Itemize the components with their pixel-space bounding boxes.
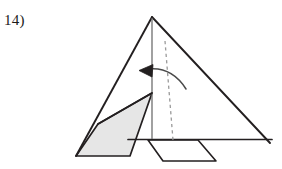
fold-arrow-head bbox=[139, 65, 153, 78]
shaded-flap-shape bbox=[76, 93, 152, 156]
origami-fold-diagram bbox=[0, 0, 282, 169]
bottom-flap-shape bbox=[148, 140, 216, 161]
triangle-right-edge bbox=[152, 17, 270, 143]
figure-container: 14) bbox=[0, 0, 282, 169]
dashed-fold-line bbox=[165, 41, 173, 140]
problem-number-label: 14) bbox=[4, 12, 25, 29]
